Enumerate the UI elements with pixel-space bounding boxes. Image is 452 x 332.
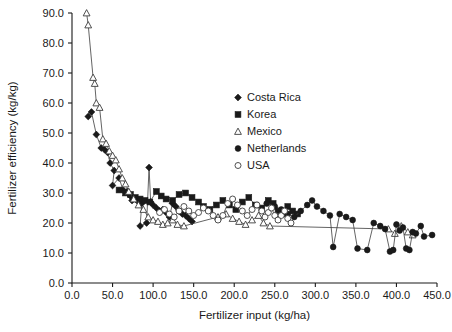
marker-square	[183, 190, 189, 196]
marker-circle-open	[196, 210, 202, 216]
marker-circle-filled	[298, 208, 304, 214]
marker-circle-filled	[355, 246, 361, 252]
legend-item-label: Korea	[247, 108, 277, 120]
marker-circle-open	[235, 163, 241, 169]
marker-circle-filled	[429, 232, 435, 238]
fertilizer-efficiency-chart: 0.050.0100.0150.0200.0250.0300.0350.0400…	[0, 0, 452, 332]
x-axis-title: Fertilizer input (kg/ha)	[199, 309, 310, 321]
marker-circle-open	[171, 214, 177, 220]
x-tick-label: 200.0	[220, 289, 248, 301]
legend-item-mexico: Mexico	[235, 125, 282, 137]
y-tick-label: 60.0	[43, 97, 64, 109]
marker-circle-filled	[291, 214, 297, 220]
y-axis-title: Fertilizer efficiency (kg/kg)	[6, 81, 18, 215]
marker-circle-filled	[235, 146, 241, 152]
marker-circle-filled	[264, 201, 270, 207]
marker-circle-filled	[343, 214, 349, 220]
marker-circle-filled	[321, 208, 327, 214]
marker-circle-open	[282, 208, 288, 214]
y-tick-label: 70.0	[43, 67, 64, 79]
marker-circle-open	[259, 208, 265, 214]
marker-triangle	[145, 214, 152, 220]
marker-triangle	[83, 10, 90, 16]
marker-circle-filled	[314, 204, 320, 210]
legend-item-netherlands: Netherlands	[235, 142, 307, 154]
marker-circle-filled	[327, 213, 333, 219]
chart-legend: Costa RicaKoreaMexicoNetherlandsUSA	[235, 91, 307, 171]
x-tick-label: 100.0	[139, 289, 167, 301]
legend-item-usa: USA	[235, 159, 270, 171]
marker-triangle	[242, 221, 249, 227]
marker-circle-filled	[407, 247, 413, 253]
marker-circle-open	[239, 208, 245, 214]
x-tick-label: 450.0	[423, 289, 451, 301]
marker-triangle	[122, 181, 129, 187]
marker-circle-filled	[371, 220, 377, 226]
marker-square	[213, 202, 219, 208]
marker-circle-filled	[337, 211, 343, 217]
marker-circle-open	[210, 213, 216, 219]
marker-circle-open	[254, 202, 260, 208]
marker-circle-filled	[309, 198, 315, 204]
marker-diamond	[146, 164, 153, 171]
marker-square	[176, 192, 182, 198]
y-tick-label: 10.0	[43, 247, 64, 259]
marker-circle-filled	[418, 223, 424, 229]
marker-circle-open	[288, 220, 294, 226]
marker-circle-filled	[304, 202, 310, 208]
marker-triangle	[260, 220, 267, 226]
legend-item-label: Costa Rica	[247, 91, 302, 103]
marker-square	[116, 187, 122, 193]
marker-triangle	[229, 215, 236, 221]
legend-item-label: USA	[247, 159, 270, 171]
marker-square	[170, 198, 176, 204]
x-tick-label: 250.0	[261, 289, 289, 301]
axes-layer: 0.050.0100.0150.0200.0250.0300.0350.0400…	[43, 7, 451, 301]
y-tick-label: 90.0	[43, 7, 64, 19]
marker-circle-open	[176, 208, 182, 214]
x-tick-label: 150.0	[180, 289, 208, 301]
marker-circle-open	[269, 205, 275, 211]
marker-square	[147, 199, 153, 205]
marker-circle-open	[230, 196, 236, 202]
y-tick-label: 0.0	[49, 277, 64, 289]
marker-square	[189, 195, 195, 201]
x-tick-label: 400.0	[383, 289, 411, 301]
marker-circle-open	[225, 201, 231, 207]
marker-circle-open	[186, 208, 192, 214]
x-tick-label: 300.0	[302, 289, 330, 301]
y-tick-label: 50.0	[43, 127, 64, 139]
legend-item-label: Mexico	[247, 125, 282, 137]
marker-triangle	[236, 218, 243, 224]
marker-circle-open	[161, 207, 167, 213]
chart-canvas: 0.050.0100.0150.0200.0250.0300.0350.0400…	[0, 0, 452, 332]
marker-circle-filled	[421, 234, 427, 240]
marker-triangle	[91, 80, 98, 86]
marker-circle-open	[234, 202, 240, 208]
marker-circle-filled	[382, 226, 388, 232]
x-tick-label: 50.0	[102, 289, 123, 301]
marker-circle-open	[215, 217, 221, 223]
y-tick-label: 20.0	[43, 217, 64, 229]
marker-square	[246, 195, 252, 201]
marker-square	[235, 112, 241, 118]
legend-item-korea: Korea	[235, 108, 277, 120]
marker-circle-open	[205, 208, 211, 214]
y-tick-label: 40.0	[43, 157, 64, 169]
marker-circle-filled	[400, 225, 406, 231]
legend-item-label: Netherlands	[247, 142, 307, 154]
y-tick-label: 80.0	[43, 37, 64, 49]
marker-circle-filled	[390, 247, 396, 253]
marker-diamond	[235, 94, 242, 101]
y-tick-label: 30.0	[43, 187, 64, 199]
marker-diamond	[143, 220, 150, 227]
marker-triangle	[116, 166, 123, 172]
marker-circle-filled	[413, 231, 419, 237]
marker-circle-open	[249, 207, 255, 213]
marker-circle-filled	[364, 247, 370, 253]
x-tick-label: 350.0	[342, 289, 370, 301]
marker-circle-filled	[330, 244, 336, 250]
x-tick-label: 0.0	[64, 289, 79, 301]
marker-triangle	[235, 128, 242, 134]
marker-diamond	[137, 223, 144, 230]
